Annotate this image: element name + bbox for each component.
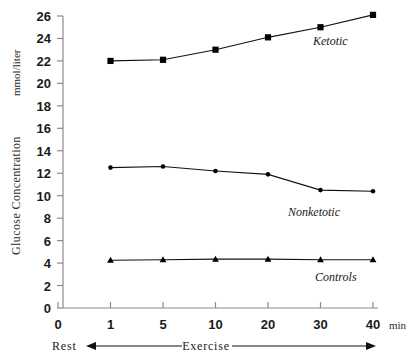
series-lines-group bbox=[111, 15, 374, 260]
arrow-head-right-icon bbox=[366, 342, 376, 350]
series-line-controls bbox=[111, 259, 374, 260]
y-tick-label-22: 22 bbox=[37, 54, 51, 69]
exercise-span-arrow bbox=[86, 342, 376, 350]
data-point-nonketotic-40 bbox=[371, 189, 376, 194]
phase-label-exercise: Exercise bbox=[182, 339, 230, 353]
y-tick-label-14: 14 bbox=[37, 144, 52, 159]
y-tick-label-0: 0 bbox=[44, 301, 51, 316]
arrow-head-left-icon bbox=[86, 342, 96, 350]
x-tick-label-10: 10 bbox=[208, 317, 222, 332]
y-tick-label-8: 8 bbox=[44, 211, 51, 226]
series-label-controls: Controls bbox=[315, 270, 357, 284]
data-point-nonketotic-10 bbox=[213, 169, 218, 174]
y-tick-label-26: 26 bbox=[37, 9, 51, 24]
y-tick-label-12: 12 bbox=[37, 166, 51, 181]
y-axis-unit-label: mmol/liter bbox=[10, 49, 22, 96]
data-point-ketotic-20 bbox=[265, 34, 271, 40]
y-tick-label-10: 10 bbox=[37, 189, 51, 204]
data-point-ketotic-40 bbox=[370, 12, 376, 18]
phase-label-rest: Rest bbox=[52, 339, 77, 353]
data-point-nonketotic-5 bbox=[161, 164, 166, 169]
data-point-nonketotic-20 bbox=[266, 172, 271, 177]
x-axis-ticks bbox=[58, 302, 373, 308]
series-label-nonketotic: Nonketotic bbox=[287, 205, 341, 219]
y-axis-ticks bbox=[57, 16, 63, 308]
chart-container: 02468101214161820222426 01510203040 Gluc… bbox=[0, 0, 419, 359]
y-tick-label-16: 16 bbox=[37, 121, 51, 136]
y-tick-label-2: 2 bbox=[44, 279, 51, 294]
y-axis-tick-labels: 02468101214161820222426 bbox=[37, 9, 52, 316]
x-tick-label-1: 1 bbox=[107, 317, 114, 332]
y-tick-label-6: 6 bbox=[44, 234, 51, 249]
y-axis-title: Glucose Concentration bbox=[9, 136, 23, 255]
y-tick-label-4: 4 bbox=[44, 256, 52, 271]
x-tick-label-0: 0 bbox=[54, 317, 61, 332]
series-markers-group bbox=[107, 12, 376, 263]
series-label-ketotic: Ketotic bbox=[312, 34, 348, 48]
data-point-ketotic-1 bbox=[107, 58, 113, 64]
y-tick-label-24: 24 bbox=[37, 31, 52, 46]
x-axis-tick-labels: 01510203040 bbox=[54, 317, 380, 332]
x-tick-label-30: 30 bbox=[313, 317, 327, 332]
x-tick-label-5: 5 bbox=[159, 317, 166, 332]
glucose-concentration-line-chart: 02468101214161820222426 01510203040 Gluc… bbox=[0, 0, 419, 359]
x-axis-unit-label: min bbox=[389, 319, 407, 331]
y-tick-label-20: 20 bbox=[37, 76, 51, 91]
y-tick-label-18: 18 bbox=[37, 99, 51, 114]
data-point-ketotic-30 bbox=[317, 24, 323, 30]
x-tick-label-40: 40 bbox=[366, 317, 380, 332]
data-point-ketotic-10 bbox=[212, 47, 218, 53]
data-point-ketotic-5 bbox=[160, 57, 166, 63]
data-point-nonketotic-1 bbox=[108, 165, 113, 170]
series-line-nonketotic bbox=[111, 166, 374, 191]
data-point-nonketotic-30 bbox=[318, 188, 323, 193]
x-tick-label-20: 20 bbox=[261, 317, 275, 332]
